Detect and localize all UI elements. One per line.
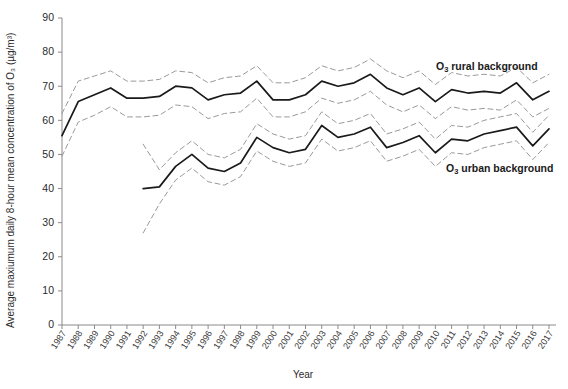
y-tick-label: 80 (42, 45, 54, 57)
y-axis-ticks: 0102030405060708090 (42, 11, 62, 330)
x-tick-label: 1998 (227, 329, 246, 351)
line-chart: Average maxiumum daily 8-hour mean conce… (0, 0, 568, 389)
series-layer (62, 59, 549, 233)
x-tick-label: 2017 (536, 329, 555, 351)
series-ci-line (143, 139, 549, 233)
y-tick-label: 40 (42, 182, 54, 194)
x-tick-label: 2000 (260, 329, 279, 351)
urban-annot-o: O (446, 162, 454, 174)
series-mean-line (62, 74, 549, 135)
x-tick-label: 2014 (487, 329, 506, 351)
y-tick-label: 50 (42, 148, 54, 160)
y-axis-title: Average maxiumum daily 8-hour mean conce… (5, 33, 16, 328)
x-tick-label: 1988 (65, 329, 84, 351)
x-tick-label: 2003 (309, 329, 328, 351)
x-tick-label: 1990 (98, 329, 117, 351)
x-tick-label: 1987 (49, 329, 68, 351)
y-tick-label: 90 (42, 11, 54, 23)
x-tick-label: 2008 (390, 329, 409, 351)
rural-annotation-label: O3 rural background (436, 60, 538, 74)
x-tick-label: 1996 (195, 329, 214, 351)
x-tick-label: 2007 (374, 329, 393, 351)
x-tick-label: 2009 (406, 329, 425, 351)
x-tick-label: 2005 (341, 329, 360, 351)
x-tick-label: 1991 (114, 329, 133, 351)
caption-fragment (18, 371, 318, 378)
x-tick-label: 2006 (357, 329, 376, 351)
x-tick-label: 2001 (276, 329, 295, 351)
x-tick-label: 1999 (244, 329, 263, 351)
x-tick-label: 2015 (503, 329, 522, 351)
x-tick-label: 2013 (471, 329, 490, 351)
series-mean-line (143, 125, 549, 188)
y-tick-label: 10 (42, 284, 54, 296)
x-tick-label: 2010 (422, 329, 441, 351)
y-axis-title-label: Average maxiumum daily 8-hour mean conce… (5, 33, 16, 328)
x-axis-ticks: 1987198819891990199119921993199419951996… (49, 325, 555, 351)
x-tick-label: 1997 (211, 329, 230, 351)
y-tick-label: 70 (42, 80, 54, 92)
urban-annotation-label: O3 urban background (446, 162, 553, 176)
rural-annot-rest: rural background (448, 60, 537, 72)
x-tick-label: 1992 (130, 329, 149, 351)
urban-annot-rest: urban background (458, 162, 553, 174)
y-tick-label: 30 (42, 216, 54, 228)
x-tick-label: 2012 (455, 329, 474, 351)
rural-annotation: O3 rural background (436, 60, 538, 74)
y-tick-label: 0 (48, 318, 54, 330)
x-tick-label: 1995 (179, 329, 198, 351)
x-tick-label: 2002 (292, 329, 311, 351)
x-tick-label: 2016 (520, 329, 539, 351)
urban-annotation: O3 urban background (446, 162, 553, 176)
x-tick-label: 1994 (163, 329, 182, 351)
x-tick-label: 1993 (146, 329, 165, 351)
ozone-trend-figure: Average maxiumum daily 8-hour mean conce… (0, 0, 568, 389)
rural-annot-o: O (436, 60, 444, 72)
x-tick-label: 2004 (325, 329, 344, 351)
x-tick-label: 2011 (439, 329, 458, 351)
y-tick-label: 60 (42, 114, 54, 126)
x-tick-label: 1989 (81, 329, 100, 351)
y-tick-label: 20 (42, 250, 54, 262)
